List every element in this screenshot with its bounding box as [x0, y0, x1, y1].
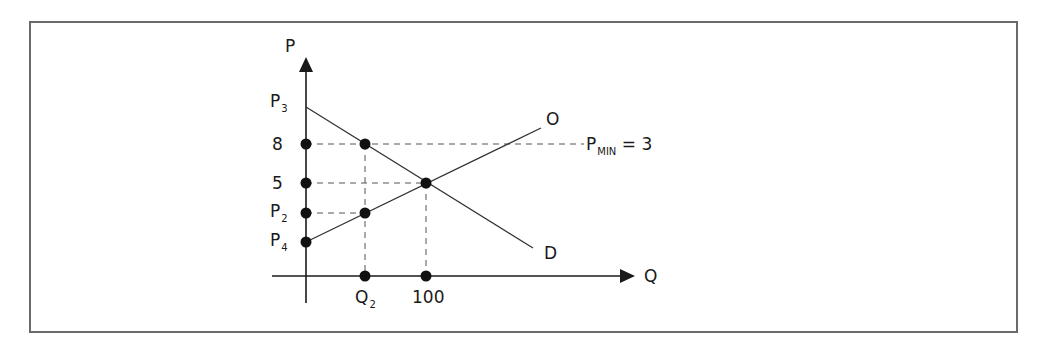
supply-demand-diagram: P Q O D P3 8 5 P2 P4 Q2 100 PMIN = 3 — [0, 0, 1040, 353]
y-tick-p3: P3 — [270, 91, 288, 114]
demand-curve — [306, 107, 533, 248]
point-demand-at-floor — [360, 139, 371, 150]
axes — [272, 70, 622, 303]
y-tick-5: 5 — [272, 173, 283, 193]
price-floor-label: PMIN = 3 — [586, 134, 652, 157]
point-supply-at-q2 — [360, 208, 371, 219]
y-axis-arrow-icon — [299, 57, 313, 72]
point-equilibrium — [421, 178, 432, 189]
supply-curve-label: O — [546, 109, 559, 129]
point-x-q2 — [360, 271, 371, 282]
x-tick-q2: Q2 — [355, 287, 376, 310]
y-tick-p4: P4 — [270, 230, 288, 253]
point-y-p2 — [301, 208, 312, 219]
point-y-p4 — [301, 237, 312, 248]
x-axis-label: Q — [644, 266, 657, 286]
x-axis-arrow-icon — [620, 269, 635, 283]
points — [301, 139, 432, 282]
y-tick-8: 8 — [272, 134, 283, 154]
x-tick-100: 100 — [412, 287, 444, 307]
y-axis-label: P — [285, 36, 295, 56]
point-y-5 — [301, 178, 312, 189]
point-y-8 — [301, 139, 312, 150]
demand-curve-label: D — [544, 243, 557, 263]
point-x-100 — [421, 271, 432, 282]
y-tick-p2: P2 — [270, 201, 288, 224]
guide-lines — [306, 144, 584, 276]
